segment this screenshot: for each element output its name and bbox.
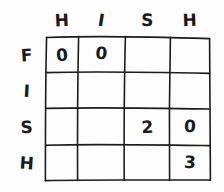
grid-line-h0 bbox=[47, 37, 210, 39]
cell-r3c3: 2 bbox=[125, 118, 171, 137]
grid-line-h1 bbox=[46, 72, 210, 74]
diagram-canvas: H I S H F I S H 0 0 2 0 3 bbox=[0, 0, 224, 192]
grid-line-h2 bbox=[46, 108, 210, 109]
cell-r4c4: 3 bbox=[170, 153, 211, 172]
cell-r1c1: 0 bbox=[45, 45, 79, 65]
grid-line-h3 bbox=[46, 144, 211, 145]
grid-line-h4 bbox=[45, 180, 210, 181]
cell-r3c4: 0 bbox=[170, 117, 211, 136]
